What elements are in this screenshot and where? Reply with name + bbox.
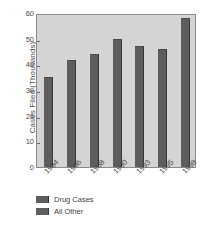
bar — [113, 39, 122, 167]
legend-swatch — [36, 208, 49, 215]
chart-legend: Drug CasesAll Other — [36, 194, 186, 218]
plot-area — [36, 14, 196, 168]
plot-inner — [37, 15, 195, 167]
y-axis-tick-labels: 0102030405060 — [20, 14, 34, 168]
y-tick-mark — [37, 92, 40, 93]
y-tick-mark — [37, 118, 40, 119]
y-tick-label: 10 — [20, 139, 34, 147]
bar-chart-figure: Cases Filed (Thousands) 0102030405060 19… — [0, 0, 206, 226]
legend-label: All Other — [54, 208, 83, 216]
bar — [44, 77, 53, 167]
y-tick-mark — [37, 143, 40, 144]
legend-item: All Other — [36, 206, 186, 217]
bar — [135, 46, 144, 167]
x-axis-tick-labels: 1984198619881990199319951998 — [36, 168, 196, 194]
legend-label: Drug Cases — [54, 196, 94, 204]
y-tick-label: 20 — [20, 113, 34, 121]
legend-swatch — [36, 196, 49, 203]
y-tick-mark — [37, 66, 40, 67]
bar — [181, 18, 190, 167]
bar — [158, 49, 167, 167]
y-tick-label: 0 — [20, 164, 34, 172]
y-tick-label: 50 — [20, 36, 34, 44]
bar — [90, 54, 99, 167]
y-tick-label: 60 — [20, 10, 34, 18]
y-tick-label: 40 — [20, 62, 34, 70]
bar — [67, 60, 76, 167]
legend-item: Drug Cases — [36, 194, 186, 205]
y-tick-mark — [37, 41, 40, 42]
y-tick-label: 30 — [20, 87, 34, 95]
